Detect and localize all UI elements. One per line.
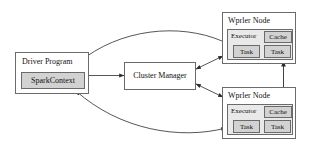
executor-1-label: Executor: [231, 33, 256, 40]
cluster-manager-label: Cluster Manager: [125, 72, 195, 80]
cache-2-label: Cache: [265, 109, 291, 116]
executor-2-label: Executor: [231, 108, 256, 115]
executor-1-box: Executor Cache Task Task: [227, 29, 293, 60]
worker-node-1-label: Wprler Node: [228, 17, 270, 25]
cache-1-box: Cache: [264, 31, 292, 43]
task-2-2-box: Task: [264, 120, 291, 133]
task-2-2-label: Task: [265, 123, 290, 130]
arrow-worker-1-to-sparkcontext: [78, 31, 222, 63]
cluster-manager-box: Cluster Manager: [124, 62, 196, 90]
task-2-1-label: Task: [234, 123, 259, 130]
task-1-1-box: Task: [233, 45, 260, 58]
arrow-worker-2-to-sparkcontext: [76, 91, 226, 133]
worker-node-2-label: Wprler Node: [228, 92, 270, 100]
task-2-1-box: Task: [233, 120, 260, 133]
task-1-1-label: Task: [234, 48, 259, 55]
driver-program-label: Driver Program: [22, 58, 72, 66]
arrow-cluster-manager-to-worker-2: [196, 84, 223, 97]
cache-2-box: Cache: [264, 106, 292, 118]
spark-architecture-diagram: Driver Program SparkContext Cluster Mana…: [0, 0, 310, 159]
task-1-2-box: Task: [264, 45, 291, 58]
arrow-cluster-manager-to-worker-1: [196, 56, 223, 69]
executor-2-box: Executor Cache Task Task: [227, 104, 293, 135]
worker-node-1-box: Wprler Node Executor Cache Task Task: [222, 12, 296, 64]
task-1-2-label: Task: [265, 48, 290, 55]
sparkcontext-box: SparkContext: [21, 72, 85, 89]
cache-1-label: Cache: [265, 34, 291, 41]
driver-program-box: Driver Program SparkContext: [15, 52, 89, 94]
worker-node-2-box: Wprler Node Executor Cache Task Task: [222, 87, 296, 139]
sparkcontext-label: SparkContext: [22, 77, 84, 85]
